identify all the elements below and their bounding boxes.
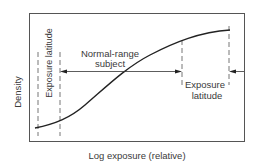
right-latitude-label-line2: latitude bbox=[192, 90, 223, 101]
right-latitude-label-line1: Exposure bbox=[185, 79, 225, 90]
arrowhead-right bbox=[175, 70, 182, 74]
center-label-line2: subject bbox=[95, 58, 125, 69]
x-axis-label: Log exposure (relative) bbox=[88, 150, 185, 161]
arrowhead-right-latitude bbox=[229, 70, 236, 74]
y-axis-label: Density bbox=[12, 76, 23, 108]
arrowhead-left bbox=[60, 70, 67, 74]
left-latitude-label: Exposure latitude bbox=[44, 28, 54, 98]
characteristic-curve-diagram: Density Log exposure (relative) Exposure… bbox=[0, 0, 256, 166]
